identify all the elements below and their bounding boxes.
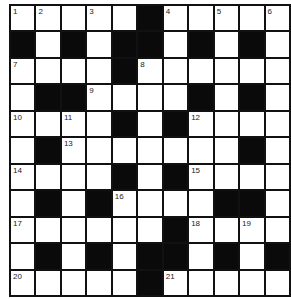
answer-cell[interactable]: 5 xyxy=(215,6,238,30)
answer-cell[interactable] xyxy=(11,191,34,215)
answer-cell[interactable]: 6 xyxy=(266,6,289,30)
answer-cell[interactable]: 14 xyxy=(11,165,34,189)
answer-cell[interactable] xyxy=(266,138,289,162)
answer-cell[interactable]: 10 xyxy=(11,112,34,136)
answer-cell[interactable]: 1 xyxy=(11,6,34,30)
black-square xyxy=(113,112,136,136)
answer-cell[interactable] xyxy=(266,32,289,56)
answer-cell[interactable] xyxy=(36,59,59,83)
answer-cell[interactable]: 17 xyxy=(11,218,34,242)
answer-cell[interactable]: 11 xyxy=(62,112,85,136)
answer-cell[interactable] xyxy=(164,191,187,215)
answer-cell[interactable] xyxy=(87,138,110,162)
clue-number: 17 xyxy=(13,219,22,228)
answer-cell[interactable] xyxy=(11,85,34,109)
clue-number: 9 xyxy=(89,86,93,95)
answer-cell[interactable] xyxy=(215,85,238,109)
black-square xyxy=(240,138,263,162)
answer-cell[interactable] xyxy=(62,6,85,30)
answer-cell[interactable] xyxy=(36,32,59,56)
answer-cell[interactable] xyxy=(36,218,59,242)
answer-cell[interactable] xyxy=(36,271,59,295)
answer-cell[interactable] xyxy=(87,59,110,83)
answer-cell[interactable]: 20 xyxy=(11,271,34,295)
answer-cell[interactable] xyxy=(11,138,34,162)
answer-cell[interactable] xyxy=(113,218,136,242)
answer-cell[interactable] xyxy=(215,138,238,162)
answer-cell[interactable] xyxy=(87,112,110,136)
answer-cell[interactable] xyxy=(62,59,85,83)
answer-cell[interactable] xyxy=(266,59,289,83)
answer-cell[interactable] xyxy=(62,244,85,268)
answer-cell[interactable] xyxy=(240,271,263,295)
answer-cell[interactable] xyxy=(87,32,110,56)
black-square xyxy=(164,112,187,136)
answer-cell[interactable] xyxy=(189,244,212,268)
answer-cell[interactable] xyxy=(138,218,161,242)
answer-cell[interactable] xyxy=(215,112,238,136)
answer-cell[interactable] xyxy=(164,59,187,83)
answer-cell[interactable] xyxy=(240,59,263,83)
answer-cell[interactable]: 7 xyxy=(11,59,34,83)
answer-cell[interactable]: 18 xyxy=(189,218,212,242)
answer-cell[interactable] xyxy=(189,6,212,30)
answer-cell[interactable] xyxy=(138,165,161,189)
answer-cell[interactable] xyxy=(113,85,136,109)
answer-cell[interactable] xyxy=(87,165,110,189)
answer-cell[interactable] xyxy=(189,191,212,215)
answer-cell[interactable] xyxy=(62,165,85,189)
answer-cell[interactable] xyxy=(266,85,289,109)
answer-cell[interactable] xyxy=(138,191,161,215)
answer-cell[interactable]: 21 xyxy=(164,271,187,295)
answer-cell[interactable] xyxy=(266,218,289,242)
answer-cell[interactable]: 4 xyxy=(164,6,187,30)
answer-cell[interactable] xyxy=(215,218,238,242)
answer-cell[interactable] xyxy=(266,112,289,136)
answer-cell[interactable]: 19 xyxy=(240,218,263,242)
answer-cell[interactable] xyxy=(62,191,85,215)
answer-cell[interactable] xyxy=(36,112,59,136)
answer-cell[interactable] xyxy=(11,244,34,268)
answer-cell[interactable] xyxy=(164,32,187,56)
answer-cell[interactable] xyxy=(240,244,263,268)
answer-cell[interactable] xyxy=(164,85,187,109)
answer-cell[interactable] xyxy=(189,138,212,162)
answer-cell[interactable] xyxy=(87,218,110,242)
answer-cell[interactable] xyxy=(240,165,263,189)
answer-cell[interactable] xyxy=(87,271,110,295)
answer-cell[interactable] xyxy=(138,85,161,109)
answer-cell[interactable] xyxy=(62,218,85,242)
answer-cell[interactable] xyxy=(113,138,136,162)
answer-cell[interactable] xyxy=(62,271,85,295)
answer-cell[interactable] xyxy=(138,112,161,136)
answer-cell[interactable]: 12 xyxy=(189,112,212,136)
answer-cell[interactable] xyxy=(215,59,238,83)
answer-cell[interactable] xyxy=(113,6,136,30)
answer-cell[interactable] xyxy=(215,271,238,295)
answer-cell[interactable] xyxy=(36,165,59,189)
answer-cell[interactable] xyxy=(215,32,238,56)
clue-number: 3 xyxy=(89,7,93,16)
answer-cell[interactable] xyxy=(266,191,289,215)
answer-cell[interactable]: 16 xyxy=(113,191,136,215)
black-square xyxy=(138,32,161,56)
answer-cell[interactable]: 2 xyxy=(36,6,59,30)
clue-number: 14 xyxy=(13,166,22,175)
answer-cell[interactable] xyxy=(164,138,187,162)
answer-cell[interactable] xyxy=(138,138,161,162)
answer-cell[interactable] xyxy=(113,244,136,268)
answer-cell[interactable] xyxy=(266,271,289,295)
clue-number: 16 xyxy=(115,192,124,201)
answer-cell[interactable] xyxy=(189,271,212,295)
answer-cell[interactable] xyxy=(240,112,263,136)
answer-cell[interactable] xyxy=(240,6,263,30)
answer-cell[interactable]: 8 xyxy=(138,59,161,83)
answer-cell[interactable] xyxy=(266,165,289,189)
answer-cell[interactable]: 13 xyxy=(62,138,85,162)
answer-cell[interactable] xyxy=(113,271,136,295)
answer-cell[interactable]: 9 xyxy=(87,85,110,109)
answer-cell[interactable] xyxy=(215,165,238,189)
answer-cell[interactable] xyxy=(189,59,212,83)
answer-cell[interactable]: 15 xyxy=(189,165,212,189)
answer-cell[interactable]: 3 xyxy=(87,6,110,30)
